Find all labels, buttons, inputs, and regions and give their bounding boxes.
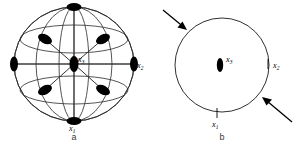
panel-a: x3 x2 x1 a	[10, 3, 144, 142]
panel-b-caption: b	[219, 132, 224, 142]
panel-a-caption: a	[71, 132, 76, 142]
arrow-upper-left-shaft	[163, 10, 183, 27]
node-left	[10, 57, 18, 72]
panel-b: x3 x2 x1 b	[163, 10, 292, 142]
label-x1-b: x1	[211, 120, 219, 130]
node-top	[67, 3, 82, 11]
figure-root: x3 x2 x1 a x3 x2 x1 b	[0, 0, 298, 145]
figure-canvas: x3 x2 x1 a x3 x2 x1 b	[0, 0, 298, 145]
label-x3-a: x3	[77, 55, 85, 65]
label-x2-a: x2	[136, 61, 144, 71]
arrow-lower-right	[262, 97, 292, 122]
label-x2-b: x2	[272, 61, 280, 71]
label-x3-b: x3	[225, 55, 233, 65]
node-center-b	[217, 58, 223, 72]
arrow-upper-left	[163, 10, 187, 30]
arrow-lower-right-shaft	[267, 101, 292, 122]
